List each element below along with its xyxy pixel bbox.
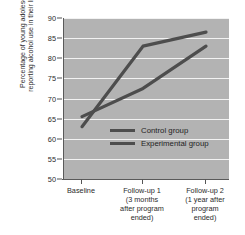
x-tick-label-follow-up-2-line-3: program [185, 204, 224, 213]
y-tick-label-85: 85 [48, 34, 56, 43]
legend-item-control-group: Control group [110, 124, 209, 137]
chart-figure: Percentage of young adolescents reportin… [0, 0, 245, 235]
x-tick-label-follow-up-1-line-4: ended) [120, 213, 164, 222]
x-tick-label-baseline: Baseline [67, 186, 95, 195]
line-control-group [82, 32, 206, 127]
series-layer [64, 18, 229, 179]
x-tick-mark-baseline [81, 179, 82, 184]
y-tick-mark-85 [57, 38, 62, 39]
legend-label-experimental-group: Experimental group [141, 139, 209, 148]
y-tick-mark-60 [57, 138, 62, 139]
y-tick-mark-75 [57, 78, 62, 79]
x-tick-label-follow-up-2-line-4: ended) [185, 213, 224, 222]
x-axis-ticks: Baseline Follow-up 1 (3 months after pro… [63, 179, 228, 235]
legend-swatch-control-group [110, 129, 135, 132]
y-tick-label-55: 55 [48, 154, 56, 163]
y-tick-label-75: 75 [48, 74, 56, 83]
y-tick-label-70: 70 [48, 94, 56, 103]
legend-swatch-experimental-group [110, 142, 135, 145]
y-tick-mark-55 [57, 158, 62, 159]
x-tick-label-follow-up-2-line-2: (1 year after [185, 195, 224, 204]
plot-area [63, 18, 229, 179]
x-tick-mark-follow-up-2 [205, 179, 206, 184]
y-tick-label-60: 60 [48, 134, 56, 143]
x-tick-label-follow-up-1-line-3: after program [120, 204, 164, 213]
x-tick-label-follow-up-1: Follow-up 1 (3 months after program ende… [120, 186, 164, 222]
x-tick-label-follow-up-2-line-1: Follow-up 2 [185, 186, 224, 195]
y-tick-mark-70 [57, 98, 62, 99]
legend-item-experimental-group: Experimental group [110, 137, 209, 150]
y-axis-ticks: 50 55 60 65 70 75 80 85 90 [38, 18, 56, 179]
y-tick-mark-65 [57, 118, 62, 119]
legend-label-control-group: Control group [141, 126, 188, 135]
x-tick-label-follow-up-2: Follow-up 2 (1 year after program ended) [185, 186, 224, 222]
y-tick-label-50: 50 [48, 175, 56, 184]
x-tick-label-baseline-line-1: Baseline [67, 186, 95, 195]
y-tick-mark-80 [57, 58, 62, 59]
x-tick-mark-follow-up-1 [142, 179, 143, 184]
y-tick-label-65: 65 [48, 114, 56, 123]
x-tick-label-follow-up-1-line-2: (3 months [120, 195, 164, 204]
y-axis-title-line-2: reporting alcohol use in their lifetime [28, 0, 36, 92]
line-experimental-group [82, 46, 206, 116]
y-tick-label-80: 80 [48, 54, 56, 63]
x-tick-label-follow-up-1-line-1: Follow-up 1 [120, 186, 164, 195]
y-tick-mark-90 [57, 18, 62, 19]
y-axis-title: Percentage of young adolescents reportin… [16, 0, 40, 116]
y-tick-label-90: 90 [48, 14, 56, 23]
chart-legend: Control group Experimental group [110, 124, 209, 150]
